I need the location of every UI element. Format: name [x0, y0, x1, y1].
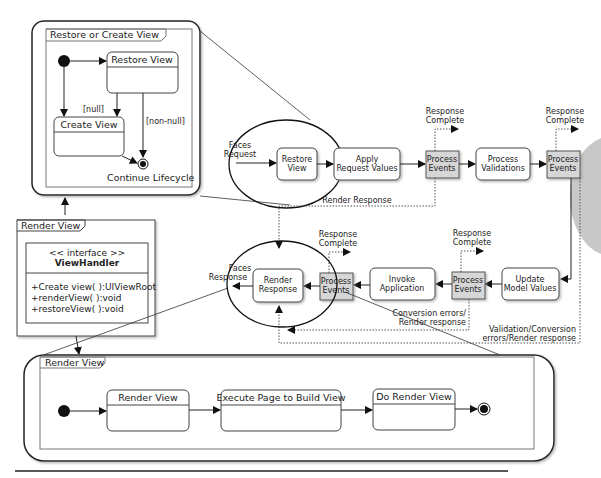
- initial-state-icon: [58, 405, 70, 417]
- method: +renderView( ):void: [31, 293, 122, 303]
- svg-text:Validation/Conversion: Validation/Conversion: [489, 325, 576, 334]
- svg-text:Response: Response: [546, 107, 585, 116]
- svg-text:Conversion errors/: Conversion errors/: [392, 309, 466, 318]
- svg-text:Response: Response: [259, 285, 298, 294]
- phase-process-validations: Process Validations: [476, 148, 530, 180]
- svg-text:Process: Process: [548, 155, 578, 164]
- svg-text:Execute Page to Build View: Execute Page to Build View: [217, 392, 346, 403]
- process-events-2: Process Events: [547, 151, 580, 178]
- method: +Create view( ):UIViewRoot: [31, 282, 156, 292]
- state-render-view: Render View: [107, 390, 189, 431]
- state-create-view: Create View: [54, 117, 124, 156]
- svg-text:Application: Application: [380, 284, 425, 293]
- svg-text:Render View: Render View: [118, 392, 178, 403]
- svg-text:Response: Response: [426, 107, 465, 116]
- jsf-lifecycle-diagram: Restore or Create View Restore View [nul…: [0, 0, 601, 478]
- svg-text:Restore View: Restore View: [111, 54, 173, 65]
- svg-text:Render View: Render View: [45, 357, 105, 368]
- guard-null: [null]: [83, 105, 104, 114]
- phase-apply-request-values: Apply Request Values: [334, 148, 400, 180]
- svg-text:Complete: Complete: [426, 116, 465, 125]
- svg-text:Create View: Create View: [60, 119, 117, 130]
- svg-text:Validations: Validations: [481, 164, 525, 173]
- svg-text:Process: Process: [453, 276, 483, 285]
- state-do-render-view: Do Render View: [373, 389, 455, 430]
- phase-render-response: Render Response: [253, 269, 303, 302]
- render-response-label: Render Response: [322, 196, 392, 205]
- svg-text:Render response: Render response: [399, 318, 466, 327]
- svg-text:Complete: Complete: [319, 239, 358, 248]
- svg-text:Do Render View: Do Render View: [376, 391, 452, 402]
- svg-text:errors/Render response: errors/Render response: [482, 334, 576, 343]
- method: +restoreView( ):void: [31, 304, 124, 314]
- svg-text:Events: Events: [549, 164, 576, 173]
- restore-or-create-view-inset: Restore or Create View Restore View [nul…: [32, 21, 200, 195]
- svg-text:Update: Update: [516, 275, 545, 284]
- svg-text:Render: Render: [264, 276, 293, 285]
- phase-invoke-application: Invoke Application: [370, 268, 435, 300]
- svg-text:Process: Process: [488, 155, 518, 164]
- interface-stereotype: << interface >>: [49, 248, 125, 258]
- svg-text:Invoke: Invoke: [389, 275, 415, 284]
- svg-text:Events: Events: [454, 285, 481, 294]
- phase-restore-view: Restore View: [277, 148, 317, 180]
- frame-title: Restore or Create View: [50, 29, 159, 40]
- svg-text:Render View: Render View: [21, 220, 81, 231]
- svg-text:Request Values: Request Values: [336, 164, 397, 173]
- render-view-class-frame: Render View << interface >> ViewHandler …: [17, 220, 156, 336]
- continue-lifecycle-label: Continue Lifecycle: [107, 172, 195, 183]
- svg-text:Request: Request: [224, 150, 257, 159]
- process-events-1: Process Events: [426, 151, 459, 178]
- svg-text:Events: Events: [428, 164, 455, 173]
- guard-non-null: [non-null]: [146, 117, 185, 126]
- state-execute-page: Execute Page to Build View: [217, 390, 346, 431]
- svg-text:Response: Response: [319, 230, 358, 239]
- svg-text:Response: Response: [453, 229, 492, 238]
- class-name: ViewHandler: [55, 258, 120, 268]
- initial-state-icon: [58, 55, 70, 67]
- phase-update-model-values: Update Model Values: [502, 268, 559, 300]
- render-view-flow-frame: Render View Render View Execute Page to …: [24, 355, 554, 461]
- process-events-3: Process Events: [452, 272, 485, 299]
- svg-text:Faces: Faces: [229, 141, 251, 150]
- svg-text:Model Values: Model Values: [504, 284, 557, 293]
- svg-text:Complete: Complete: [546, 116, 585, 125]
- svg-text:Apply: Apply: [356, 155, 379, 164]
- svg-text:Restore: Restore: [282, 155, 312, 164]
- svg-text:Complete: Complete: [453, 238, 492, 247]
- svg-text:Process: Process: [427, 155, 457, 164]
- svg-text:View: View: [288, 164, 307, 173]
- lifecycle-flow: Faces Request Restore View Apply Request…: [209, 107, 585, 355]
- state-restore-view: Restore View: [107, 52, 178, 93]
